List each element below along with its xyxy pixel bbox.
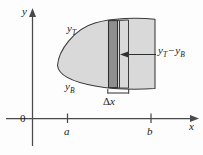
y-axis-label: y: [22, 6, 27, 17]
x-tick-label-b: b: [147, 126, 153, 137]
x-axis-label: x: [189, 121, 194, 132]
delta-x-label: Δx: [103, 96, 115, 107]
origin-label: 0: [20, 113, 26, 124]
delta-x-variable: x: [110, 95, 115, 107]
strip-height-label: yT−yB: [158, 45, 185, 59]
x-tick-label-a: a: [64, 126, 70, 137]
area-between-curves-figure: y x 0 a b yT yB Δx yT−yB: [0, 0, 203, 155]
representative-strip-fill: [109, 21, 118, 88]
top-curve-label: yT: [67, 23, 76, 37]
bottom-curve-label-subscript: B: [70, 86, 75, 95]
top-curve-label-subscript: T: [72, 28, 76, 37]
figure-canvas: [0, 0, 203, 155]
strip-height-second-subscript: B: [180, 50, 185, 59]
delta-x-measure-group: [108, 89, 130, 94]
y-axis-arrowhead: [29, 8, 36, 17]
bottom-curve-label: yB: [65, 81, 74, 95]
